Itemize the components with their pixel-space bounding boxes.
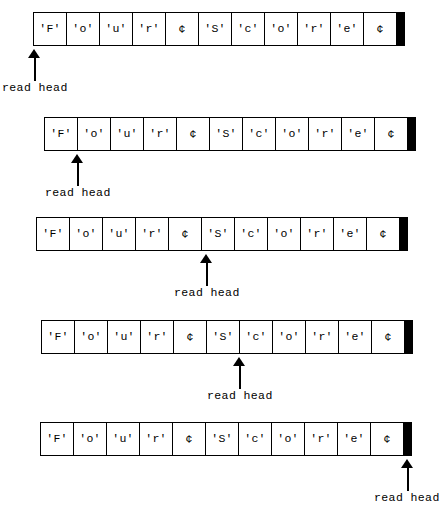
tape-cell[interactable]: 'o' — [70, 218, 103, 250]
tape-cell[interactable]: 'c' — [235, 218, 268, 250]
tape-cell[interactable]: 'e' — [342, 118, 375, 150]
tape-cell[interactable]: 'r' — [144, 118, 177, 150]
tape-cell[interactable]: 'S' — [199, 13, 232, 45]
tape-cell[interactable]: ¢ — [372, 321, 405, 353]
read-head-arrow-icon — [401, 459, 415, 494]
tape-cell[interactable]: 'r' — [309, 118, 342, 150]
tape: 'F''o''u''r'¢'S''c''o''r''e'¢ — [44, 117, 416, 151]
tape-cell[interactable]: 'F' — [41, 423, 74, 455]
tape-cell[interactable]: 'F' — [42, 321, 75, 353]
tape-cell[interactable]: ¢ — [364, 13, 397, 45]
tape-cell[interactable]: 'u' — [108, 321, 141, 353]
tape-cell[interactable]: 'F' — [37, 218, 70, 250]
read-head-label: read head — [45, 187, 111, 199]
tape-cell[interactable]: 'o' — [74, 423, 107, 455]
tape-end-marker-icon — [400, 218, 407, 250]
read-head-arrow-icon — [200, 254, 214, 289]
read-head-label: read head — [374, 492, 440, 504]
tape-cell[interactable]: 'r' — [305, 423, 338, 455]
tape-cell[interactable]: 'o' — [67, 13, 100, 45]
tape-cell[interactable]: 'S' — [210, 118, 243, 150]
tape-cell[interactable]: ¢ — [367, 218, 400, 250]
tape-cell[interactable]: 'o' — [265, 13, 298, 45]
tape-cell[interactable]: 'c' — [232, 13, 265, 45]
tape-cell[interactable]: ¢ — [375, 118, 408, 150]
tape-cell[interactable]: 'r' — [301, 218, 334, 250]
read-head-label: read head — [2, 82, 68, 94]
tape-cell[interactable]: 'c' — [243, 118, 276, 150]
tape-cell[interactable]: 'r' — [298, 13, 331, 45]
tape: 'F''o''u''r'¢'S''c''o''r''e'¢ — [41, 320, 413, 354]
tape-cell[interactable]: 'o' — [273, 321, 306, 353]
tape-cell[interactable]: 'u' — [107, 423, 140, 455]
tape-cell[interactable]: 'o' — [268, 218, 301, 250]
tape-cell[interactable]: ¢ — [173, 423, 206, 455]
tape-cell[interactable]: 'S' — [202, 218, 235, 250]
tape-cell[interactable]: 'o' — [75, 321, 108, 353]
tape-cell[interactable]: 'c' — [239, 423, 272, 455]
tape-cell[interactable]: 'r' — [133, 13, 166, 45]
tape-cell[interactable]: 'r' — [141, 321, 174, 353]
read-head-arrow-icon — [233, 357, 247, 392]
read-head-arrow-icon — [28, 49, 42, 84]
arrow-shaft — [407, 465, 409, 491]
tape-cell[interactable]: 'S' — [206, 423, 239, 455]
tape-cell[interactable]: 'F' — [45, 118, 78, 150]
tape-end-marker-icon — [408, 118, 415, 150]
tape: 'F''o''u''r'¢'S''c''o''r''e'¢ — [36, 217, 408, 251]
tape: 'F''o''u''r'¢'S''c''o''r''e'¢ — [40, 422, 412, 456]
tape-cell[interactable]: 'S' — [207, 321, 240, 353]
tape-cell[interactable]: 'u' — [111, 118, 144, 150]
arrow-shaft — [206, 260, 208, 286]
arrow-shaft — [77, 160, 79, 186]
tape-cell[interactable]: 'o' — [78, 118, 111, 150]
tape-end-marker-icon — [404, 423, 411, 455]
tape-cell[interactable]: 'u' — [100, 13, 133, 45]
tape-diagram-stage: 'F''o''u''r'¢'S''c''o''r''e'¢read head'F… — [0, 0, 442, 510]
tape-cell[interactable]: 'e' — [334, 218, 367, 250]
tape-cell[interactable]: 'F' — [34, 13, 67, 45]
tape-cell[interactable]: 'c' — [240, 321, 273, 353]
tape-cell[interactable]: 'r' — [306, 321, 339, 353]
tape-cell[interactable]: 'e' — [339, 321, 372, 353]
tape-cell[interactable]: 'o' — [272, 423, 305, 455]
tape-cell[interactable]: ¢ — [177, 118, 210, 150]
arrow-shaft — [34, 55, 36, 81]
tape-cell[interactable]: 'e' — [331, 13, 364, 45]
tape-cell[interactable]: ¢ — [166, 13, 199, 45]
arrow-shaft — [239, 363, 241, 389]
tape-cell[interactable]: ¢ — [174, 321, 207, 353]
tape-cell[interactable]: ¢ — [371, 423, 404, 455]
read-head-label: read head — [207, 390, 273, 402]
tape: 'F''o''u''r'¢'S''c''o''r''e'¢ — [33, 12, 405, 46]
tape-end-marker-icon — [397, 13, 404, 45]
tape-cell[interactable]: ¢ — [169, 218, 202, 250]
tape-end-marker-icon — [405, 321, 412, 353]
tape-cell[interactable]: 'r' — [136, 218, 169, 250]
tape-cell[interactable]: 'e' — [338, 423, 371, 455]
read-head-arrow-icon — [71, 154, 85, 189]
tape-cell[interactable]: 'u' — [103, 218, 136, 250]
read-head-label: read head — [174, 287, 240, 299]
tape-cell[interactable]: 'r' — [140, 423, 173, 455]
tape-cell[interactable]: 'o' — [276, 118, 309, 150]
